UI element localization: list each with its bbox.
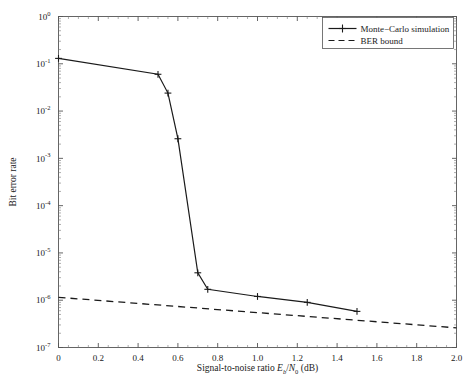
x-tick-label: 1.6 — [371, 353, 383, 363]
figure-container: 00.20.40.60.81.01.21.41.61.82.010010-110… — [0, 0, 471, 388]
bit-error-rate-chart: 00.20.40.60.81.01.21.41.61.82.010010-110… — [0, 0, 471, 388]
x-tick-label: 1.0 — [252, 353, 264, 363]
x-tick-label: 1.2 — [292, 353, 303, 363]
x-axis-title: Signal-to-noise ratio Eb/N0 (dB) — [197, 363, 318, 375]
x-tick-label: 0.8 — [212, 353, 224, 363]
x-tick-label: 2.0 — [451, 353, 463, 363]
y-tick-label: 10-7 — [36, 341, 51, 353]
y-tick-label: 10-4 — [36, 199, 51, 211]
x-tick-label: 1.8 — [411, 353, 423, 363]
x-tick-label: 0.4 — [132, 353, 144, 363]
y-tick-label: 10-6 — [36, 293, 51, 305]
series-line-2 — [59, 297, 457, 328]
legend-label-1: Monte−Carlo simulation — [361, 24, 450, 34]
x-tick-label: 1.4 — [331, 353, 343, 363]
y-tick-label: 100 — [38, 10, 50, 22]
x-tick-label: 0.6 — [172, 353, 184, 363]
x-tick-label: 0.2 — [93, 353, 104, 363]
series-line-1 — [59, 58, 358, 311]
legend-label-2: BER bound — [361, 36, 404, 46]
x-tick-label: 0 — [56, 353, 61, 363]
y-tick-label: 10-5 — [36, 246, 50, 258]
y-tick-label: 10-3 — [36, 151, 50, 163]
y-tick-label: 10-1 — [36, 57, 50, 69]
y-axis-title: Bit error rate — [8, 157, 18, 206]
y-tick-label: 10-2 — [36, 104, 50, 116]
